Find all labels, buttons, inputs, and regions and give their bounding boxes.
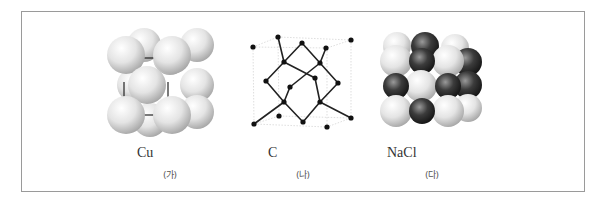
cu-fcc-structure (107, 28, 214, 137)
formula-nacl: NaCl (387, 145, 417, 161)
nacl-structure (380, 32, 482, 127)
formula-c: C (268, 145, 277, 161)
diamond-structure (250, 34, 353, 129)
formula-cu: Cu (137, 145, 153, 161)
tag-da: (다) (425, 168, 439, 181)
tag-na: (나) (296, 168, 310, 181)
tag-ga: (가) (163, 168, 177, 181)
